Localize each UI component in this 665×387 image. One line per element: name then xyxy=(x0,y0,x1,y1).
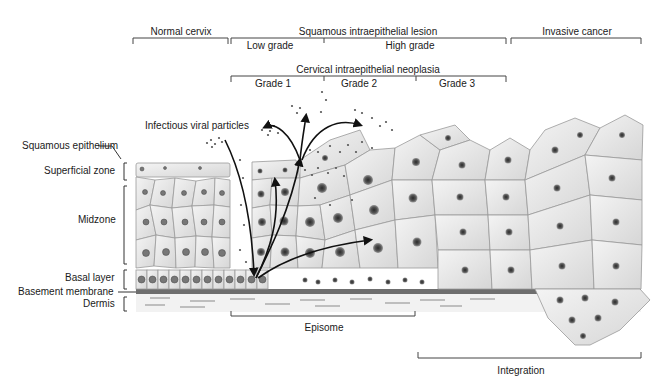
label-invasive-cancer: Invasive cancer xyxy=(542,27,611,37)
label-normal-cervix: Normal cervix xyxy=(150,27,211,37)
label-episome: Episome xyxy=(305,323,344,333)
label-high-grade: High grade xyxy=(386,41,435,51)
label-dermis: Dermis xyxy=(83,299,115,309)
label-grade-3: Grade 3 xyxy=(439,79,475,89)
invasive-bracket xyxy=(511,38,641,44)
label-squamous-epithelium: Squamous epithelium xyxy=(22,141,118,151)
label-basement-membrane: Basement membrane xyxy=(18,287,114,297)
label-low-grade: Low grade xyxy=(247,41,294,51)
label-viral-particles: Infectious viral particles xyxy=(145,121,249,131)
normal-epithelium xyxy=(136,163,268,289)
label-integration: Integration xyxy=(497,366,544,376)
label-basal-layer: Basal layer xyxy=(65,273,114,283)
label-grade-1: Grade 1 xyxy=(255,79,291,89)
label-sil: Squamous intraepithelial lesion xyxy=(299,27,437,37)
normal-cervix-bracket xyxy=(133,38,228,44)
label-cin: Cervical intraepithelial neoplasia xyxy=(296,65,439,75)
label-midzone: Midzone xyxy=(78,215,116,225)
label-grade-2: Grade 2 xyxy=(341,79,377,89)
invasive-tongue xyxy=(535,289,650,345)
label-superficial-zone: Superficial zone xyxy=(44,166,115,176)
integration-bracket xyxy=(418,352,641,358)
